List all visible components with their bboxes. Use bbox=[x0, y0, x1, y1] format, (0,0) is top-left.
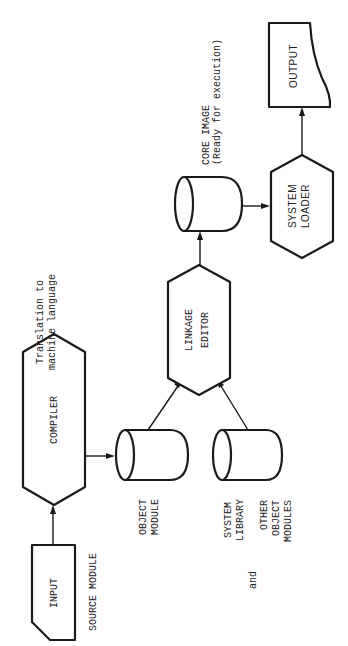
node-input: INPUT bbox=[32, 545, 75, 640]
node-linkage-editor: LINKAGE EDITOR bbox=[168, 265, 230, 395]
edge-system-loader-output bbox=[299, 107, 305, 155]
object-module-cylinder-end bbox=[116, 430, 134, 480]
node-system-loader: SYSTEM LOADER bbox=[271, 155, 333, 258]
node-core-image: CORE IMAGE (Ready for execution) bbox=[175, 39, 242, 231]
output-document-shape bbox=[269, 23, 330, 107]
input-label: INPUT bbox=[49, 578, 60, 608]
core-image-cylinder-end bbox=[175, 177, 193, 231]
compiler-note: Translation to machine language bbox=[35, 274, 58, 370]
system-loader-label-line1: SYSTEM bbox=[287, 184, 298, 228]
other-object-modules-line2: OBJECT bbox=[271, 500, 282, 536]
node-object-module: OBJECT MODULE bbox=[116, 430, 188, 535]
linkage-editor-label-line1: LINKAGE bbox=[184, 309, 195, 351]
other-object-modules-line1: OTHER bbox=[259, 500, 270, 530]
linkage-editor-hexagon-shape bbox=[168, 265, 230, 395]
core-image-label-line1: CORE IMAGE bbox=[201, 105, 212, 165]
compiler-note-line1: Translation to bbox=[35, 280, 46, 364]
output-label: OUTPUT bbox=[288, 44, 299, 88]
compiler-label: COMPILER bbox=[49, 396, 60, 444]
source-module-caption: SOURCE MODULE bbox=[88, 553, 99, 631]
object-module-label-line2: MODULE bbox=[150, 499, 161, 535]
linkage-editor-label-line2: EDITOR bbox=[200, 312, 211, 348]
node-output: OUTPUT bbox=[269, 23, 330, 107]
system-library-label-line2: LIBRARY bbox=[235, 499, 246, 541]
flowchart-canvas: INPUT SOURCE MODULE COMPILER Translation… bbox=[0, 0, 348, 646]
edge-compiler-object-module bbox=[85, 453, 115, 459]
compiler-note-line2: machine language bbox=[47, 274, 58, 370]
edge-system-library-linkage-editor bbox=[217, 378, 248, 430]
edge-input-compiler bbox=[50, 505, 56, 545]
edge-linkage-editor-core-image bbox=[197, 231, 203, 265]
edge-object-module-linkage-editor bbox=[148, 378, 183, 430]
node-system-library: SYSTEM LIBRARY and OTHER OBJECT MODULES bbox=[213, 430, 294, 589]
system-library-cylinder-end bbox=[213, 430, 231, 480]
system-library-label-line1: SYSTEM bbox=[223, 502, 234, 538]
core-image-label-line2: (Ready for execution) bbox=[212, 39, 223, 165]
other-object-modules-line3: MODULES bbox=[283, 500, 294, 542]
system-loader-label-line2: LOADER bbox=[300, 184, 311, 228]
system-library-conjunction: and bbox=[248, 571, 259, 589]
object-module-label-line1: OBJECT bbox=[138, 499, 149, 535]
edge-core-image-system-loader bbox=[240, 203, 270, 209]
